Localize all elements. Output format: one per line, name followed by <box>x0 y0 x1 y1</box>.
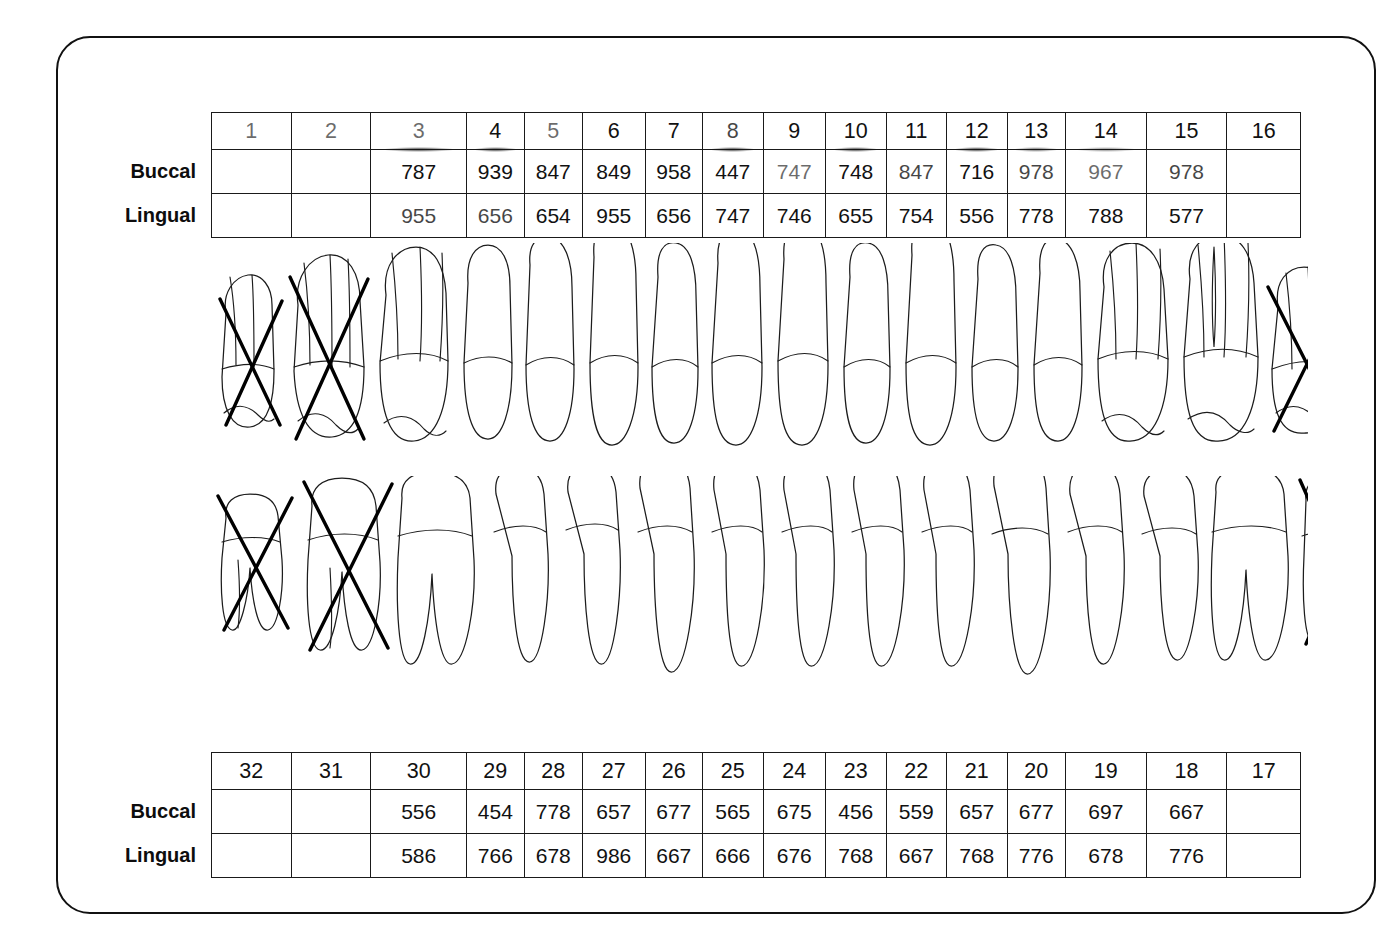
lower-lingual-cell-22[interactable]: 667 <box>886 834 947 878</box>
lower-buccal-cell-27[interactable]: 657 <box>583 790 646 834</box>
upper-buccal-cell-15[interactable]: 978 <box>1146 150 1227 194</box>
lower-tooth-number-19[interactable]: 19 <box>1066 753 1147 790</box>
lower-lingual-cell-26[interactable]: 667 <box>645 834 702 878</box>
upper-lingual-cell-13[interactable]: 778 <box>1007 194 1065 238</box>
upper-buccal-cell-1[interactable] <box>212 150 292 194</box>
tooth-graphic-32 <box>218 494 292 630</box>
upper-tooth-number-13[interactable]: 13 <box>1007 113 1065 150</box>
lower-tooth-number-31[interactable]: 31 <box>291 753 371 790</box>
upper-buccal-cell-14[interactable]: 967 <box>1066 150 1147 194</box>
upper-lingual-cell-15[interactable]: 577 <box>1146 194 1227 238</box>
upper-tooth-number-6[interactable]: 6 <box>583 113 646 150</box>
upper-buccal-cell-2[interactable] <box>291 150 371 194</box>
upper-buccal-cell-12[interactable]: 716 <box>947 150 1008 194</box>
lower-tooth-number-30[interactable]: 30 <box>371 753 467 790</box>
upper-tooth-number-2[interactable]: 2 <box>291 113 371 150</box>
upper-buccal-cell-9[interactable]: 747 <box>763 150 826 194</box>
lower-buccal-cell-18[interactable]: 667 <box>1146 790 1227 834</box>
upper-tooth-number-9[interactable]: 9 <box>763 113 826 150</box>
upper-buccal-cell-6[interactable]: 849 <box>583 150 646 194</box>
lower-lingual-cell-28[interactable]: 678 <box>524 834 582 878</box>
lower-tooth-number-22[interactable]: 22 <box>886 753 947 790</box>
lower-tooth-number-17[interactable]: 17 <box>1227 753 1301 790</box>
lower-buccal-cell-17[interactable] <box>1227 790 1301 834</box>
lower-lingual-cell-20[interactable]: 776 <box>1007 834 1065 878</box>
upper-tooth-number-11[interactable]: 11 <box>886 113 947 150</box>
upper-buccal-cell-3[interactable]: 787 <box>371 150 467 194</box>
upper-tooth-number-1[interactable]: 1 <box>212 113 292 150</box>
upper-buccal-cell-11[interactable]: 847 <box>886 150 947 194</box>
lower-tooth-number-27[interactable]: 27 <box>583 753 646 790</box>
upper-buccal-cell-8[interactable]: 447 <box>703 150 764 194</box>
lower-lingual-cell-31[interactable] <box>291 834 371 878</box>
upper-tooth-number-10[interactable]: 10 <box>826 113 887 150</box>
lower-tooth-number-32[interactable]: 32 <box>212 753 292 790</box>
lower-lingual-cell-32[interactable] <box>212 834 292 878</box>
upper-lingual-cell-8[interactable]: 747 <box>703 194 764 238</box>
upper-tooth-number-3[interactable]: 3 <box>371 113 467 150</box>
lower-tooth-number-25[interactable]: 25 <box>703 753 764 790</box>
lower-buccal-cell-22[interactable]: 559 <box>886 790 947 834</box>
upper-tooth-number-7[interactable]: 7 <box>645 113 702 150</box>
lower-tooth-number-26[interactable]: 26 <box>645 753 702 790</box>
upper-lingual-cell-3[interactable]: 955 <box>371 194 467 238</box>
lower-lingual-cell-23[interactable]: 768 <box>826 834 887 878</box>
lower-lingual-cell-25[interactable]: 666 <box>703 834 764 878</box>
lower-tooth-number-18[interactable]: 18 <box>1146 753 1227 790</box>
upper-tooth-number-15[interactable]: 15 <box>1146 113 1227 150</box>
upper-tooth-number-12[interactable]: 12 <box>947 113 1008 150</box>
upper-buccal-cell-13[interactable]: 978 <box>1007 150 1065 194</box>
lower-buccal-cell-24[interactable]: 675 <box>763 790 826 834</box>
lower-lingual-cell-17[interactable] <box>1227 834 1301 878</box>
upper-tooth-number-5[interactable]: 5 <box>524 113 582 150</box>
lower-tooth-number-20[interactable]: 20 <box>1007 753 1065 790</box>
lower-buccal-cell-29[interactable]: 454 <box>467 790 524 834</box>
upper-tooth-number-8[interactable]: 8 <box>703 113 764 150</box>
upper-lingual-cell-5[interactable]: 654 <box>524 194 582 238</box>
upper-lingual-cell-7[interactable]: 656 <box>645 194 702 238</box>
lower-tooth-number-21[interactable]: 21 <box>947 753 1008 790</box>
lower-tooth-number-28[interactable]: 28 <box>524 753 582 790</box>
upper-lingual-cell-4[interactable]: 656 <box>467 194 524 238</box>
upper-lingual-cell-1[interactable] <box>212 194 292 238</box>
lower-buccal-cell-25[interactable]: 565 <box>703 790 764 834</box>
upper-buccal-cell-5[interactable]: 847 <box>524 150 582 194</box>
upper-buccal-cell-4[interactable]: 939 <box>467 150 524 194</box>
lower-lingual-cell-27[interactable]: 986 <box>583 834 646 878</box>
lower-buccal-cell-28[interactable]: 778 <box>524 790 582 834</box>
lower-lingual-cell-19[interactable]: 678 <box>1066 834 1147 878</box>
upper-buccal-cell-7[interactable]: 958 <box>645 150 702 194</box>
upper-buccal-cell-10[interactable]: 748 <box>826 150 887 194</box>
tooth-graphic-22 <box>992 476 1050 674</box>
lower-lingual-cell-24[interactable]: 676 <box>763 834 826 878</box>
upper-lingual-cell-10[interactable]: 655 <box>826 194 887 238</box>
upper-lingual-cell-6[interactable]: 955 <box>583 194 646 238</box>
lower-buccal-cell-26[interactable]: 677 <box>645 790 702 834</box>
lower-lingual-cell-30[interactable]: 586 <box>371 834 467 878</box>
upper-lingual-cell-11[interactable]: 754 <box>886 194 947 238</box>
upper-tooth-number-16[interactable]: 16 <box>1227 113 1301 150</box>
lower-buccal-cell-19[interactable]: 697 <box>1066 790 1147 834</box>
upper-buccal-cell-16[interactable] <box>1227 150 1301 194</box>
lower-buccal-cell-30[interactable]: 556 <box>371 790 467 834</box>
lower-buccal-cell-21[interactable]: 657 <box>947 790 1008 834</box>
upper-lingual-cell-16[interactable] <box>1227 194 1301 238</box>
upper-lingual-cell-14[interactable]: 788 <box>1066 194 1147 238</box>
lower-lingual-cell-29[interactable]: 766 <box>467 834 524 878</box>
lower-lingual-cell-18[interactable]: 776 <box>1146 834 1227 878</box>
upper-lingual-row-label: Lingual <box>66 204 196 227</box>
upper-tooth-number-4[interactable]: 4 <box>467 113 524 150</box>
upper-lingual-cell-2[interactable] <box>291 194 371 238</box>
lower-tooth-number-24[interactable]: 24 <box>763 753 826 790</box>
lower-lingual-cell-21[interactable]: 768 <box>947 834 1008 878</box>
lower-buccal-cell-31[interactable] <box>291 790 371 834</box>
lower-buccal-cell-20[interactable]: 677 <box>1007 790 1065 834</box>
lower-tooth-number-29[interactable]: 29 <box>467 753 524 790</box>
upper-lingual-cell-12[interactable]: 556 <box>947 194 1008 238</box>
lower-tooth-number-23[interactable]: 23 <box>826 753 887 790</box>
upper-tooth-number-row: 1 2 3 4 5 6 7 8 9 10 11 12 13 14 15 16 <box>212 113 1301 150</box>
lower-buccal-cell-32[interactable] <box>212 790 292 834</box>
lower-buccal-cell-23[interactable]: 456 <box>826 790 887 834</box>
upper-lingual-cell-9[interactable]: 746 <box>763 194 826 238</box>
upper-tooth-number-14[interactable]: 14 <box>1066 113 1147 150</box>
